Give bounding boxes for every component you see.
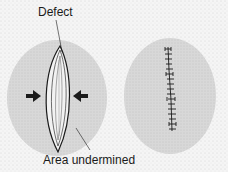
diagram-canvas: Defect Area undermined xyxy=(0,0,228,172)
diagram-illustration xyxy=(0,0,228,172)
undermined-area-right xyxy=(124,38,216,154)
area-undermined-label: Area undermined xyxy=(43,154,135,166)
right-panel-after-closure xyxy=(124,38,216,154)
defect-label: Defect xyxy=(38,6,73,18)
